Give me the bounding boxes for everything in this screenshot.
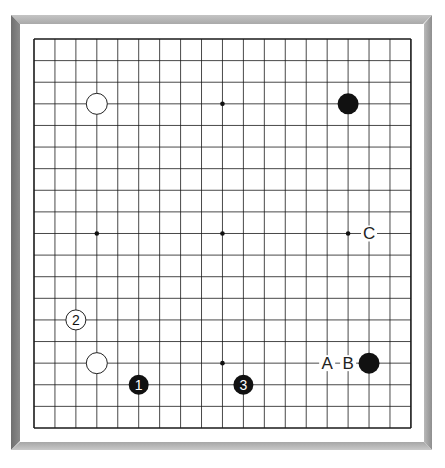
star-point [220, 231, 225, 236]
black-stone[interactable] [338, 93, 359, 114]
star-point [220, 102, 225, 107]
move-number-1: 1 [135, 377, 143, 393]
white-stone[interactable] [86, 93, 107, 114]
go-board[interactable]: 123 ABC [0, 0, 445, 468]
star-point [220, 361, 225, 366]
move-number-3: 3 [240, 377, 248, 393]
star-point [95, 231, 100, 236]
black-stone[interactable] [359, 353, 380, 374]
move-number-2: 2 [72, 312, 80, 328]
marker-label-b: B [342, 354, 353, 373]
marker-label-c: C [363, 224, 375, 243]
white-stone[interactable] [86, 353, 107, 374]
marker-label-a: A [321, 354, 333, 373]
star-point [346, 231, 351, 236]
